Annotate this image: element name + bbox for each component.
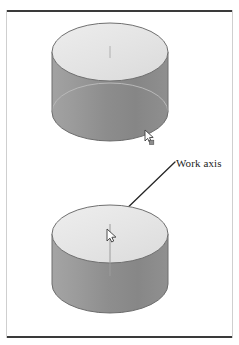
- cylinder-bottom[interactable]: [52, 205, 168, 313]
- cursor-badge-icon: [150, 140, 154, 144]
- work-axis-label: Work axis: [176, 157, 222, 170]
- cylinder-top[interactable]: [52, 23, 168, 141]
- figure-container: Work axis: [0, 0, 239, 345]
- cad-illustration: [0, 0, 239, 345]
